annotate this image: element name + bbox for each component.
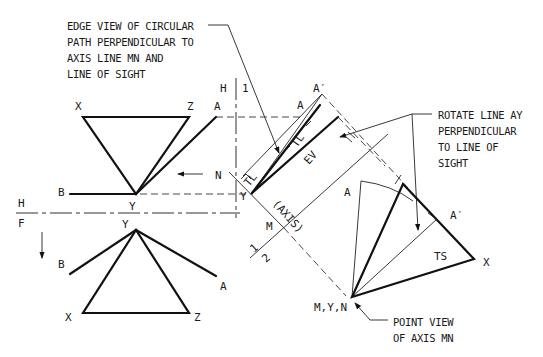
fold-label-1: 1 (242, 82, 249, 95)
note-line: PATH PERPENDICULAR TO (67, 36, 193, 48)
label-ev: EV (301, 148, 320, 167)
point-x: X (65, 311, 72, 324)
note-line: TO LINE OF (438, 141, 498, 153)
point-y: Y (122, 218, 129, 231)
rotate-note: ROTATE LINE AY PERPENDICULAR TO LINE OF … (340, 109, 523, 230)
fold-label-f: F (18, 217, 25, 230)
triangle-xyz (83, 117, 189, 194)
point-z: Z (187, 100, 194, 113)
point-n: N (215, 169, 222, 182)
point-a: A (220, 280, 227, 293)
note-line: ROTATE LINE AY (438, 109, 523, 121)
aux-view-1: A′ A Y M TL TL EV (AXIS) (229, 82, 408, 296)
point-a: A (344, 186, 351, 199)
point-a: A (214, 100, 221, 113)
note-line: OF AXIS MN (393, 332, 453, 344)
rotate-leader-2 (412, 114, 418, 230)
fold-line-12: 1 2 (247, 134, 388, 265)
note-line: AXIS LINE MN AND (67, 52, 163, 64)
line-ya (136, 117, 216, 194)
fold-label-2: 2 (259, 251, 273, 265)
point-y: Y (240, 190, 247, 203)
note-line: PERPENDICULAR (438, 125, 517, 137)
front-view: Y B A X Z (42, 218, 227, 324)
point-m: M (266, 220, 273, 233)
note-line: LINE OF SIGHT (67, 68, 146, 80)
point-z: Z (194, 311, 201, 324)
point-a: A (297, 99, 304, 112)
note-line: POINT VIEW (393, 316, 454, 328)
fold-label-1: 1 (247, 241, 261, 255)
point-b: B (58, 186, 65, 199)
top-view: X Z A B Y N (58, 100, 300, 213)
point-b: B (58, 258, 65, 271)
fold-label-h: H (220, 82, 227, 95)
point-view-note: POINT VIEW OF AXIS MN (355, 303, 454, 344)
label-ts: TS (434, 250, 447, 263)
point-x: X (483, 256, 490, 269)
line-ya (136, 230, 216, 276)
label-axis: (AXIS) (270, 197, 306, 235)
point-x: X (75, 100, 82, 113)
circular-path-arc (361, 181, 413, 201)
note-line: SIGHT (438, 157, 469, 169)
point-myn: M,Y,N (314, 301, 347, 314)
point-a-prime: A′ (313, 82, 326, 95)
diagram-canvas: EDGE VIEW OF CIRCULAR PATH PERPENDICULAR… (0, 0, 543, 357)
aux-view-2: A A′ X M,Y,N TS (314, 175, 490, 314)
point-y: Y (129, 200, 136, 213)
point-view-leader (355, 303, 388, 320)
fold-label-h: H (18, 197, 25, 210)
triangle-xyz (83, 230, 189, 313)
point-a-prime: A′ (450, 209, 463, 222)
note-line: EDGE VIEW OF CIRCULAR (67, 20, 194, 32)
line-yb (70, 230, 136, 274)
